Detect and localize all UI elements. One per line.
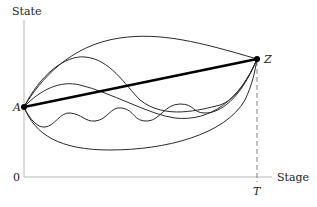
initial-point-label: A	[12, 101, 21, 114]
path-upper-arc	[24, 36, 257, 107]
terminal-stage-label: T	[253, 185, 262, 198]
path-diagram: State Stage 0 T A Z	[0, 0, 317, 207]
x-axis-label: Stage	[277, 171, 309, 184]
y-axis-label: State	[12, 5, 41, 18]
terminal-point-marker	[254, 56, 260, 62]
origin-label: 0	[13, 171, 20, 184]
path-mid-sag	[24, 59, 257, 118]
path-wavy	[24, 59, 257, 127]
terminal-point-label: Z	[263, 53, 272, 66]
initial-point-marker	[21, 104, 27, 110]
